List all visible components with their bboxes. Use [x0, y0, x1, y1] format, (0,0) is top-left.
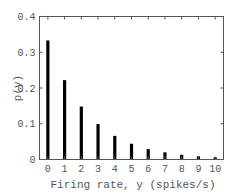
x-axis-title: Firing rate, y (spikes/s): [50, 179, 215, 191]
y-tick-label: 0.4: [17, 12, 35, 23]
x-tick-label: 10: [209, 164, 221, 175]
bar-3: [96, 124, 99, 159]
x-tick-label: 8: [179, 164, 185, 175]
y-tick-label: 0: [29, 155, 35, 166]
x-tick-label: 5: [128, 164, 134, 175]
bar-2: [80, 107, 83, 160]
bar-0: [46, 40, 49, 159]
x-tick-label: 2: [78, 164, 84, 175]
x-tick-label: 6: [145, 164, 151, 175]
x-tick-label: 3: [95, 164, 101, 175]
x-tick-label: 1: [62, 164, 68, 175]
axes-box: [40, 17, 224, 160]
x-tick-label: 9: [195, 164, 201, 175]
y-axis-title: p(y): [12, 75, 24, 101]
x-tick-label: 7: [162, 164, 168, 175]
x-tick-label: 0: [45, 164, 51, 175]
y-tick-label: 0.1: [17, 119, 35, 130]
y-tick-label: 0.3: [17, 48, 35, 59]
bar-1: [63, 80, 66, 159]
bars-group: [46, 40, 216, 159]
bar-4: [113, 136, 116, 160]
bar-chart: 00.10.20.30.4 012345678910 Firing rate, …: [0, 0, 235, 196]
x-tick-label: 4: [112, 164, 118, 175]
